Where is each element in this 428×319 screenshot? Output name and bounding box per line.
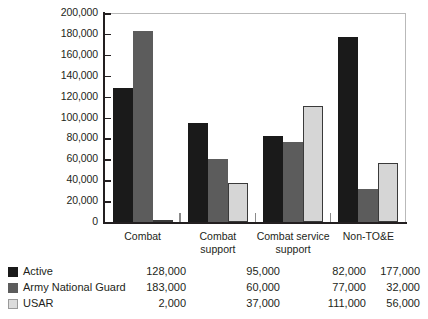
- bar: [153, 220, 173, 222]
- table-cell-value: 37,000: [210, 296, 280, 311]
- legend-series-label: USAR: [23, 296, 54, 311]
- legend-series-label: Army National Guard: [23, 280, 126, 295]
- bar: [133, 31, 153, 222]
- y-axis-tick-label: 100,000: [30, 112, 98, 123]
- table-cell-value: 2,000: [116, 296, 186, 311]
- x-axis-line: [103, 222, 407, 224]
- bar: [303, 106, 323, 222]
- x-axis-category-label: Non-TO&E: [323, 230, 414, 243]
- table-row: Army National Guard183,00060,00077,00032…: [0, 280, 428, 295]
- legend-swatch: [8, 299, 18, 309]
- bar: [263, 136, 283, 222]
- table-cell-value: 60,000: [210, 280, 280, 295]
- bar-group: [105, 13, 180, 222]
- bar: [378, 163, 398, 222]
- x-axis-category-label-line: Non-TO&E: [323, 230, 414, 243]
- bar: [358, 189, 378, 222]
- table-cell-value: 128,000: [116, 264, 186, 279]
- y-axis-tick-label: 200,000: [30, 7, 98, 18]
- bar: [208, 159, 228, 222]
- table-cell-value: 183,000: [116, 280, 186, 295]
- legend-series-label: Active: [23, 264, 53, 279]
- bars-area: [105, 13, 406, 222]
- bar: [188, 123, 208, 222]
- table-cell-value: 95,000: [210, 264, 280, 279]
- table-row: USAR2,00037,000111,00056,000: [0, 296, 428, 311]
- bar-group: [180, 13, 255, 222]
- bar-group: [331, 13, 406, 222]
- y-axis-tick-label: 180,000: [30, 28, 98, 39]
- y-axis-tick-label: 0: [30, 216, 98, 227]
- y-axis-tick-label: 60,000: [30, 153, 98, 164]
- y-axis-tick-label: 80,000: [30, 132, 98, 143]
- x-axis-category-labels: CombatCombatsupportCombat servicesupport…: [103, 230, 407, 260]
- table-cell-value: 32,000: [350, 280, 420, 295]
- x-axis-category-label-line: support: [248, 243, 339, 256]
- legend-swatch: [8, 283, 18, 293]
- bar: [113, 88, 133, 222]
- table-cell-value: 56,000: [350, 296, 420, 311]
- bar-chart: 200,000180,000160,000140,000120,000100,0…: [0, 0, 428, 258]
- data-table-legend: Active128,00095,00082,000177,000Army Nat…: [0, 264, 428, 319]
- bar: [338, 37, 358, 222]
- y-axis-tick-labels: 200,000180,000160,000140,000120,000100,0…: [30, 7, 98, 223]
- y-axis-tick-label: 120,000: [30, 91, 98, 102]
- y-axis-tick-label: 20,000: [30, 195, 98, 206]
- y-axis-tick-label: 40,000: [30, 174, 98, 185]
- y-axis-tick-label: 140,000: [30, 70, 98, 81]
- table-row: Active128,00095,00082,000177,000: [0, 264, 428, 279]
- legend-swatch: [8, 267, 18, 277]
- bar: [228, 183, 248, 222]
- table-cell-value: 177,000: [350, 264, 420, 279]
- bar-group: [256, 13, 331, 222]
- bar: [283, 142, 303, 222]
- y-axis-tick-label: 160,000: [30, 49, 98, 60]
